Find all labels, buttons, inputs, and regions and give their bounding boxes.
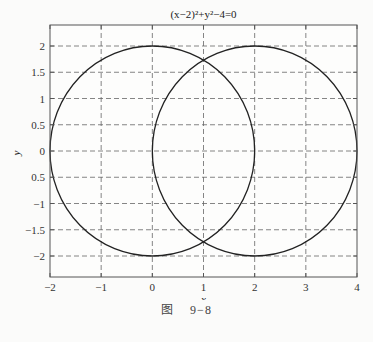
x-tick-label: 1 bbox=[201, 281, 207, 293]
x-axis-label: x bbox=[200, 293, 206, 300]
x-tick-label: −1 bbox=[95, 281, 107, 293]
y-tick-label: −2 bbox=[33, 250, 45, 262]
y-tick-label: 0 bbox=[40, 145, 46, 157]
x-tick-label: −2 bbox=[44, 281, 56, 293]
y-tick-label: 2 bbox=[40, 40, 46, 52]
chart: −2−10123421.510.500.5−1−1.5−2(x−2)²+y²−4… bbox=[0, 0, 373, 300]
x-tick-label: 2 bbox=[252, 281, 258, 293]
x-tick-label: 3 bbox=[303, 281, 309, 293]
x-tick-label: 4 bbox=[354, 281, 360, 293]
y-axis-label: y bbox=[10, 150, 22, 156]
caption-number: 9−8 bbox=[190, 303, 212, 317]
x-tick-label: 0 bbox=[150, 281, 156, 293]
chart-title: (x−2)²+y²−4=0 bbox=[170, 8, 237, 21]
y-tick-label: 0.5 bbox=[31, 171, 45, 183]
y-tick-label: 1.5 bbox=[31, 66, 45, 78]
y-tick-label: 0.5 bbox=[31, 119, 45, 131]
y-tick-label: −1.5 bbox=[25, 224, 45, 236]
caption-prefix: 图 bbox=[161, 303, 174, 317]
y-tick-label: 1 bbox=[40, 93, 46, 105]
y-tick-label: −1 bbox=[33, 198, 45, 210]
figure-caption: 图 9−8 bbox=[0, 300, 373, 318]
